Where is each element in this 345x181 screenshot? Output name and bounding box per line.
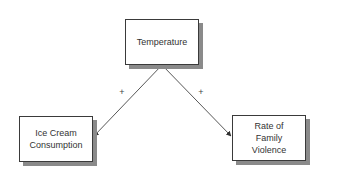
causal-diagram: Temperature Ice Cream Consumption Rate o… [0, 0, 345, 181]
node-label: Temperature [137, 36, 188, 48]
node-temperature: Temperature [125, 19, 199, 65]
node-ice-cream-consumption: Ice Cream Consumption [19, 116, 93, 162]
edge-temperature-to-violence [162, 65, 231, 136]
node-label-line-1: Ice Cream [29, 127, 82, 139]
edge-sign-plus-right: + [198, 88, 203, 97]
node-label-line-2: Consumption [29, 139, 82, 151]
node-label-line-3: Violence [252, 144, 286, 156]
edge-temperature-to-icecream [94, 65, 162, 136]
node-label-line-1: Rate of [252, 120, 286, 132]
edge-sign-plus-left: + [119, 88, 124, 97]
node-rate-of-family-violence: Rate of Family Violence [232, 115, 306, 161]
node-label-line-2: Family [252, 132, 286, 144]
